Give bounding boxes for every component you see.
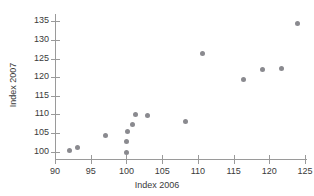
x-axis-tick-label: 120 <box>254 166 284 176</box>
x-axis-tick-label: 90 <box>40 166 70 176</box>
y-axis-line <box>55 14 56 160</box>
x-axis-tick <box>198 155 199 164</box>
data-point <box>67 148 72 153</box>
y-axis-title: Index 2007 <box>8 40 18 130</box>
x-axis-tick-label: 110 <box>183 166 213 176</box>
data-point <box>133 112 138 117</box>
data-point <box>124 139 129 144</box>
data-point <box>200 51 205 56</box>
data-point <box>103 133 108 138</box>
y-axis-tick <box>51 59 60 60</box>
y-axis-tick <box>51 21 60 22</box>
x-axis-tick <box>162 155 163 164</box>
y-axis-tick-label: 125 <box>23 53 49 63</box>
y-axis-tick <box>51 133 60 134</box>
x-axis-tick-label: 105 <box>147 166 177 176</box>
y-axis-tick <box>51 114 60 115</box>
x-axis-tick-label: 115 <box>219 166 249 176</box>
y-axis-tick-label: 115 <box>23 90 49 100</box>
y-axis-tick <box>51 96 60 97</box>
data-point <box>260 67 265 72</box>
data-point <box>295 21 300 26</box>
x-axis-tick-label: 100 <box>111 166 141 176</box>
y-axis-tick <box>51 152 60 153</box>
x-axis-tick-label: 125 <box>290 166 314 176</box>
data-point <box>130 122 135 127</box>
y-axis-tick-label: 120 <box>23 71 49 81</box>
y-axis-tick-label: 110 <box>23 108 49 118</box>
x-axis-tick <box>55 155 56 164</box>
x-axis-tick <box>234 155 235 164</box>
y-axis-tick-label: 135 <box>23 15 49 25</box>
y-axis-tick <box>51 77 60 78</box>
y-axis-tick-label: 100 <box>23 146 49 156</box>
data-point <box>279 66 284 71</box>
plot-area <box>55 14 305 159</box>
y-axis-tick <box>51 40 60 41</box>
x-axis-tick <box>91 155 92 164</box>
data-point <box>183 119 188 124</box>
data-point <box>125 129 130 134</box>
scatter-chart: 9095100105110115120125 10010511011512012… <box>0 0 314 196</box>
y-axis-tick-label: 105 <box>23 127 49 137</box>
data-point <box>75 145 80 150</box>
data-point <box>145 113 150 118</box>
x-axis-tick-label: 95 <box>76 166 106 176</box>
x-axis-tick <box>126 155 127 164</box>
x-axis-title: Index 2006 <box>0 180 314 190</box>
y-axis-tick-label: 130 <box>23 34 49 44</box>
x-axis-tick <box>305 155 306 164</box>
data-point <box>241 77 246 82</box>
x-axis-tick <box>269 155 270 164</box>
